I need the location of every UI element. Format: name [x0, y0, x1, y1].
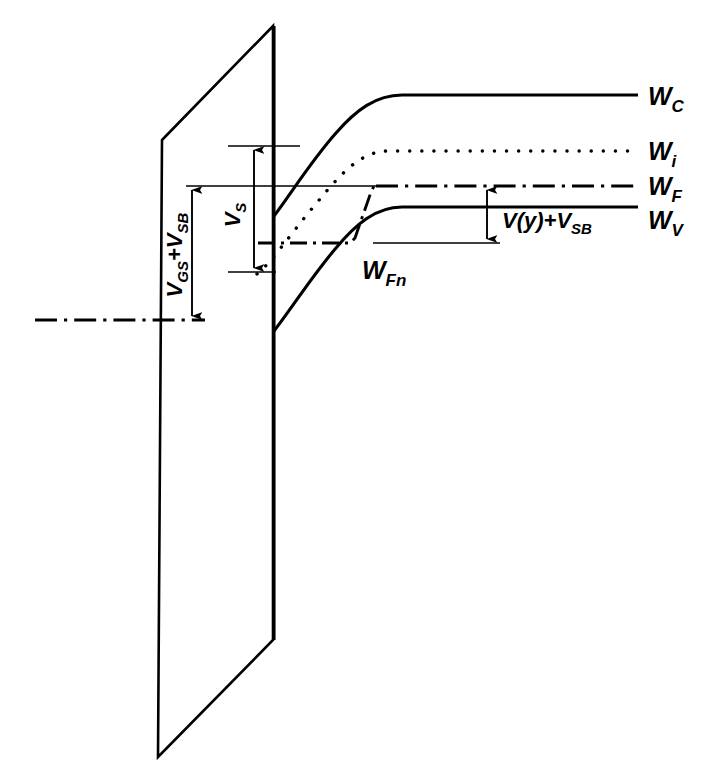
channel-voltage-annotation: V(y)+VSB — [487, 190, 592, 239]
oxide-parallelogram-outline — [158, 26, 273, 757]
gate-oxide-plane — [158, 26, 274, 757]
valence-band-label: WV — [648, 206, 685, 240]
surface-potential-annotation: VS — [220, 150, 254, 268]
band-diagram-canvas: VGS+VSB VS V(y)+VSB WC — [0, 0, 708, 781]
channel-voltage-label-sub: SB — [571, 220, 592, 237]
fermi-level-label: WF — [648, 172, 683, 206]
gate-voltage-label-v2: +V — [162, 231, 187, 261]
energy-band-figure: VGS+VSB VS V(y)+VSB WC — [0, 0, 708, 781]
conduction-band-label: WC — [648, 82, 685, 116]
intrinsic-level-label: Wi — [648, 137, 678, 171]
quasi-fermi-level-label: WFn — [362, 256, 406, 290]
surface-potential-label: VS — [220, 203, 249, 228]
quasi-fermi-level-label-subscript: Fn — [386, 271, 407, 290]
conduction-band — [274, 95, 638, 216]
intrinsic-level-label-symbol: W — [648, 137, 674, 165]
conduction-band-label-subscript: C — [672, 97, 685, 116]
conduction-band-label-symbol: W — [648, 82, 674, 110]
channel-voltage-label: V(y)+VSB — [502, 208, 592, 237]
conduction-band-curve — [274, 95, 638, 216]
gate-voltage-label-sub1: GS — [174, 261, 191, 283]
intrinsic-level-curve — [257, 151, 638, 274]
intrinsic-level-label-subscript: i — [672, 152, 678, 171]
channel-voltage-label-main: V(y)+V — [502, 208, 573, 233]
surface-potential-label-sub: S — [232, 203, 249, 213]
quasi-fermi-level-label-symbol: W — [362, 256, 388, 284]
gate-voltage-label-sub2: SB — [174, 212, 191, 233]
valence-band-label-symbol: W — [648, 206, 674, 234]
valence-band-label-subscript: V — [672, 221, 685, 240]
intrinsic-level — [257, 151, 638, 274]
fermi-level-label-symbol: W — [648, 172, 674, 200]
gate-voltage-annotation: VGS+VSB — [162, 190, 192, 316]
fermi-level-label-subscript: F — [672, 187, 683, 206]
gate-voltage-label: VGS+VSB — [162, 212, 191, 297]
